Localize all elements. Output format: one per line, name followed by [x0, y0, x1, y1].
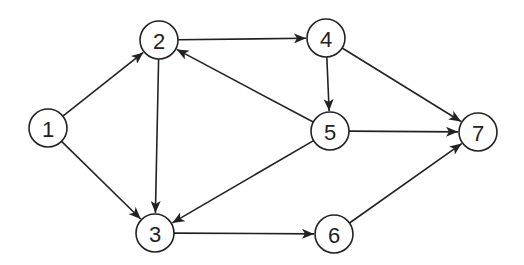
node-2: 2 [140, 21, 178, 59]
edge-1-to-2 [63, 52, 143, 116]
edge-4-to-5 [327, 57, 329, 111]
node-7: 7 [459, 113, 497, 151]
edge-5-to-7 [349, 131, 458, 132]
edge-6-to-7 [350, 144, 462, 223]
edge-1-to-3 [62, 141, 141, 219]
edge-3-to-6 [174, 233, 314, 234]
node-label: 7 [472, 121, 484, 146]
node-5: 5 [311, 112, 349, 150]
edge-2-to-4 [178, 38, 306, 40]
node-1: 1 [29, 109, 67, 147]
node-label: 3 [149, 222, 161, 247]
node-label: 1 [42, 117, 54, 142]
node-label: 6 [328, 223, 340, 248]
node-label: 4 [320, 27, 332, 52]
edge-4-to-7 [342, 48, 461, 121]
edges-layer [62, 38, 462, 234]
node-label: 2 [153, 29, 165, 54]
node-4: 4 [307, 19, 345, 57]
edge-5-to-2 [177, 49, 314, 122]
node-label: 5 [324, 120, 336, 145]
edge-2-to-3 [155, 59, 158, 213]
nodes-layer: 1234567 [29, 19, 497, 253]
node-6: 6 [315, 215, 353, 253]
edge-5-to-3 [172, 141, 313, 223]
node-3: 3 [136, 214, 174, 252]
directed-graph: 1234567 [0, 0, 524, 265]
